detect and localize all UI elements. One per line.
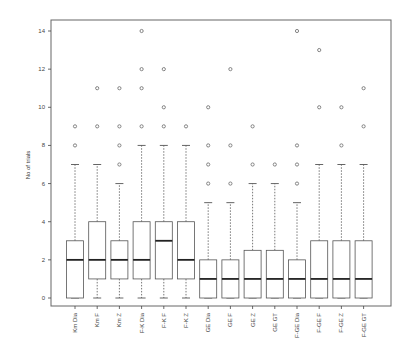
y-axis-title: No of trials xyxy=(25,151,31,180)
outlier-point xyxy=(229,144,232,147)
x-tick-label: F-GE Dia xyxy=(294,312,300,338)
y-tick-label: 12 xyxy=(38,66,45,72)
outlier-point xyxy=(73,144,76,147)
outlier-point xyxy=(140,68,143,71)
y-tick-label: 14 xyxy=(38,28,45,34)
box-f-k-f xyxy=(155,68,172,298)
iqr-box xyxy=(89,222,106,279)
outlier-point xyxy=(318,48,321,51)
outlier-point xyxy=(162,106,165,109)
outlier-point xyxy=(96,125,99,128)
iqr-box xyxy=(155,222,172,279)
outlier-point xyxy=(207,163,210,166)
box-ge-gt xyxy=(266,163,283,298)
y-axis: 02468101214 xyxy=(38,28,51,301)
box-ge-z xyxy=(244,125,261,298)
iqr-box xyxy=(266,250,283,298)
box-f-k-z xyxy=(178,125,195,298)
iqr-box xyxy=(67,241,84,298)
x-tick-label: F-K Dia xyxy=(139,312,145,333)
outlier-point xyxy=(362,87,365,90)
y-tick-label: 8 xyxy=(42,142,46,148)
outlier-point xyxy=(207,182,210,185)
iqr-box xyxy=(311,241,328,298)
box-f-k-dia xyxy=(133,29,150,298)
outlier-point xyxy=(251,163,254,166)
iqr-box xyxy=(355,241,372,298)
outlier-point xyxy=(340,144,343,147)
y-tick-label: 0 xyxy=(42,295,46,301)
box-km-dia xyxy=(67,125,84,298)
outlier-point xyxy=(118,144,121,147)
outlier-point xyxy=(118,87,121,90)
y-tick-label: 2 xyxy=(42,257,46,263)
box-f-ge-f xyxy=(311,48,328,298)
x-tick-label: F-GE GT xyxy=(361,313,367,338)
box-plot-chart: 02468101214 No of trials Km DiaKm FKm ZF… xyxy=(0,0,413,357)
x-tick-label: GE Z xyxy=(250,313,256,327)
x-tick-label: F-GE F xyxy=(316,313,322,333)
outlier-point xyxy=(295,29,298,32)
outlier-point xyxy=(96,87,99,90)
outlier-point xyxy=(251,125,254,128)
box-ge-f xyxy=(222,68,239,298)
x-tick-label: Km F xyxy=(94,313,100,328)
outlier-point xyxy=(207,144,210,147)
y-tick-label: 4 xyxy=(42,219,46,225)
iqr-box xyxy=(333,241,350,298)
x-tick-label: Km Dia xyxy=(72,312,78,332)
box-km-f xyxy=(89,87,106,298)
outlier-point xyxy=(318,106,321,109)
box-f-ge-z xyxy=(333,106,350,298)
outlier-point xyxy=(140,29,143,32)
outlier-point xyxy=(229,68,232,71)
x-tick-label: F-GE Z xyxy=(338,313,344,333)
box-f-ge-gt xyxy=(355,87,372,298)
box-f-ge-dia xyxy=(289,29,306,298)
outlier-point xyxy=(162,125,165,128)
outlier-point xyxy=(184,125,187,128)
x-axis: Km DiaKm FKm ZF-K DiaF-K FF-K ZGE DiaGE … xyxy=(72,306,367,338)
iqr-box xyxy=(244,250,261,298)
x-tick-label: F-K F xyxy=(161,313,167,328)
outlier-point xyxy=(73,125,76,128)
x-tick-label: GE Dia xyxy=(205,312,211,332)
y-tick-label: 10 xyxy=(38,104,45,110)
x-tick-label: GE GT xyxy=(272,313,278,332)
box-ge-dia xyxy=(200,106,217,298)
outlier-point xyxy=(162,68,165,71)
outlier-point xyxy=(340,106,343,109)
outlier-point xyxy=(140,87,143,90)
outlier-point xyxy=(295,182,298,185)
x-tick-label: Km Z xyxy=(116,313,122,328)
iqr-box xyxy=(133,222,150,279)
outlier-point xyxy=(118,163,121,166)
outlier-point xyxy=(295,144,298,147)
boxes xyxy=(67,29,373,298)
iqr-box xyxy=(178,222,195,279)
outlier-point xyxy=(207,106,210,109)
outlier-point xyxy=(295,163,298,166)
x-tick-label: F-K Z xyxy=(183,313,189,328)
outlier-point xyxy=(362,125,365,128)
box-km-z xyxy=(111,87,128,298)
outlier-point xyxy=(118,125,121,128)
x-tick-label: GE F xyxy=(227,313,233,327)
outlier-point xyxy=(140,125,143,128)
outlier-point xyxy=(229,182,232,185)
outlier-point xyxy=(273,163,276,166)
y-tick-label: 6 xyxy=(42,181,46,187)
